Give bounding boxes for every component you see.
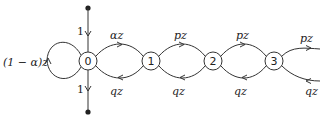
node-2: 2 [204, 52, 222, 70]
source-terminal [85, 5, 91, 52]
edge-1-2-label: pz [174, 29, 187, 42]
edge-3-next [282, 48, 320, 56]
out-edge-label: 1 [77, 83, 84, 96]
sink-terminal [85, 70, 91, 115]
self-loop-0 [45, 42, 81, 78]
svg-text:1: 1 [148, 55, 155, 68]
svg-text:0: 0 [85, 55, 92, 68]
edge-1-0-label: qz [110, 85, 123, 98]
edge-next-3 [282, 66, 320, 81]
edge-3-next-label: pz [300, 32, 313, 45]
node-0: 0 [79, 52, 97, 70]
edge-2-3-label: pz [236, 29, 249, 42]
edge-3-2-label: qz [234, 85, 247, 98]
in-edge-label: 1 [77, 25, 84, 38]
svg-text:2: 2 [210, 55, 217, 68]
node-1: 1 [142, 52, 160, 70]
edge-next-3-label: qz [305, 85, 318, 98]
self-loop-label: (1 − α)z [3, 56, 48, 69]
svg-text:3: 3 [271, 55, 278, 68]
edge-2-1-label: qz [172, 85, 185, 98]
state-diagram: 1 1 (1 − α)z αz qz pz qz pz qz pz qz 0 1 [0, 0, 329, 122]
edge-0-1-label: αz [110, 29, 123, 42]
node-3: 3 [265, 52, 283, 70]
